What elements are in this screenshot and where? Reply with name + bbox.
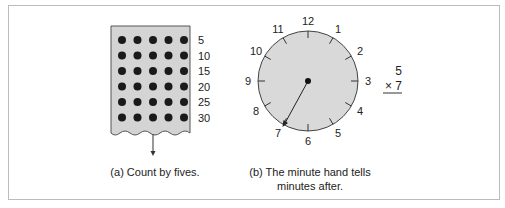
dot bbox=[180, 52, 188, 60]
row-label: 25 bbox=[198, 96, 210, 108]
dot bbox=[134, 114, 142, 122]
dot bbox=[180, 83, 188, 91]
clock-number: 8 bbox=[253, 105, 259, 117]
clock-number: 2 bbox=[357, 45, 363, 57]
dot bbox=[149, 114, 157, 122]
dot bbox=[165, 36, 173, 44]
clock-number: 12 bbox=[302, 15, 314, 27]
clock-number: 6 bbox=[305, 135, 311, 147]
multiplication-top: 5 bbox=[395, 64, 402, 78]
dot bbox=[180, 114, 188, 122]
dot bbox=[149, 67, 157, 75]
clock-number: 9 bbox=[245, 75, 251, 87]
dot bbox=[118, 67, 126, 75]
dot bbox=[149, 98, 157, 106]
dot bbox=[165, 52, 173, 60]
dot bbox=[118, 83, 126, 91]
dot bbox=[149, 36, 157, 44]
dot bbox=[134, 98, 142, 106]
dot bbox=[149, 83, 157, 91]
row-label: 30 bbox=[198, 112, 210, 124]
dot bbox=[134, 52, 142, 60]
dot bbox=[165, 67, 173, 75]
arrow-down-icon bbox=[151, 151, 156, 156]
row-label: 20 bbox=[198, 81, 210, 93]
dot bbox=[134, 83, 142, 91]
clock-number: 7 bbox=[275, 127, 281, 139]
clock-number: 1 bbox=[335, 23, 341, 35]
row-label: 10 bbox=[198, 50, 210, 62]
caption-b-line1: (b) The minute hand tells bbox=[240, 165, 380, 179]
clock-number: 10 bbox=[250, 45, 262, 57]
dot bbox=[118, 98, 126, 106]
dot bbox=[180, 36, 188, 44]
dot bbox=[180, 98, 188, 106]
multiplication-bottom: × 7 bbox=[385, 79, 402, 93]
dot bbox=[134, 36, 142, 44]
clock-number: 5 bbox=[335, 127, 341, 139]
clock-number: 4 bbox=[357, 105, 363, 117]
row-labels: 51015202530 bbox=[198, 34, 210, 124]
dot bbox=[165, 114, 173, 122]
dot bbox=[165, 98, 173, 106]
row-label: 15 bbox=[198, 65, 210, 77]
dot bbox=[118, 114, 126, 122]
clock-number: 11 bbox=[272, 23, 283, 35]
dot bbox=[118, 52, 126, 60]
dot bbox=[180, 67, 188, 75]
row-label: 5 bbox=[198, 34, 204, 46]
caption-b-line2: minutes after. bbox=[240, 179, 380, 193]
caption-a: (a) Count by fives. bbox=[100, 165, 210, 179]
dot bbox=[118, 36, 126, 44]
clock-number: 3 bbox=[365, 75, 371, 87]
clock-center bbox=[305, 78, 311, 84]
dot bbox=[165, 83, 173, 91]
dot bbox=[149, 52, 157, 60]
dot bbox=[134, 67, 142, 75]
